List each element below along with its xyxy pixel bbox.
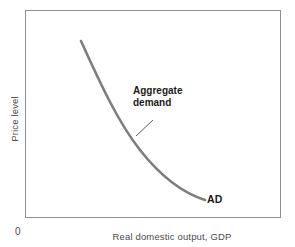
origin-label: 0 (15, 226, 21, 237)
aggregate-demand-annotation: Aggregate demand (133, 85, 182, 108)
chart-background (0, 0, 295, 247)
x-axis-label: Real domestic output, GDP (92, 231, 252, 242)
annotation-line-1: Aggregate (133, 85, 182, 97)
annotation-line-2: demand (133, 97, 182, 109)
y-axis-label: Price level (9, 59, 20, 179)
ad-curve-label: AD (207, 194, 223, 206)
aggregate-demand-figure: Price level Real domestic output, GDP 0 … (0, 0, 295, 247)
chart-canvas (0, 0, 295, 247)
